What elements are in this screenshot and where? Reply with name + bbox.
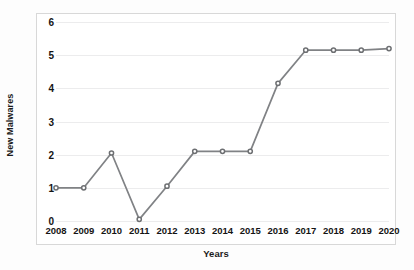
data-point-marker xyxy=(359,48,363,52)
line-series-new-malwares xyxy=(56,22,389,221)
y-axis-tick-label: 5 xyxy=(38,50,54,61)
data-point-marker xyxy=(137,217,141,221)
data-point-marker xyxy=(276,81,280,85)
grid-line xyxy=(56,221,389,222)
chart-figure: New Malwares 0123456 2008200920102011201… xyxy=(0,0,414,270)
data-point-marker xyxy=(220,149,224,153)
y-axis-tick-label: 2 xyxy=(38,149,54,160)
y-axis-tick-label: 4 xyxy=(38,83,54,94)
y-axis-tick-labels: 0123456 xyxy=(36,22,54,221)
data-point-marker xyxy=(109,151,113,155)
data-point-marker xyxy=(304,48,308,52)
y-axis-tick-label: 3 xyxy=(38,116,54,127)
x-axis-tick-labels: 2008200920102011201220132014201520162017… xyxy=(56,225,389,241)
x-axis-title: Years xyxy=(36,248,396,259)
y-axis-title: New Malwares xyxy=(5,60,21,190)
data-point-marker xyxy=(331,48,335,52)
series-line xyxy=(56,49,389,220)
y-axis-tick-label: 6 xyxy=(38,17,54,28)
data-point-marker xyxy=(165,184,169,188)
data-point-marker xyxy=(82,186,86,190)
data-point-marker xyxy=(387,46,391,50)
data-point-marker xyxy=(193,149,197,153)
data-point-marker xyxy=(248,149,252,153)
x-axis-tick-label: 2020 xyxy=(372,225,406,236)
plot-area xyxy=(56,22,389,221)
data-point-marker xyxy=(54,186,58,190)
y-axis-tick-label: 1 xyxy=(38,182,54,193)
